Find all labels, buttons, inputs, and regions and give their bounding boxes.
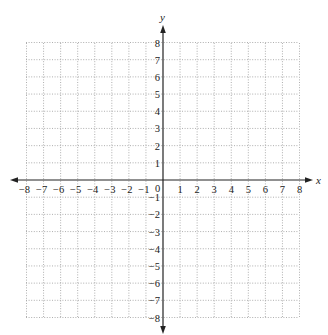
y-tick-label: −7 [149, 295, 160, 306]
y-tick-label: 2 [155, 141, 160, 152]
y-tick-label: 6 [155, 72, 160, 83]
origin-label: 0 [155, 183, 160, 194]
y-tick-label: 4 [155, 106, 161, 117]
x-tick-label: −5 [70, 184, 81, 195]
y-tick-label: −8 [149, 313, 160, 324]
coordinate-plane: −8−7−6−5−4−3−2−112345678−8−7−6−5−4−3−2−1… [0, 0, 328, 335]
y-tick-label: 5 [155, 89, 160, 100]
x-tick-label: 2 [195, 184, 200, 195]
y-tick-label: −4 [149, 244, 161, 255]
y-axis-down-arrow-icon [160, 326, 166, 334]
y-tick-label: −2 [149, 209, 160, 220]
x-tick-label: 6 [263, 184, 268, 195]
y-tick-label: 3 [155, 123, 160, 134]
y-tick-label: −6 [149, 278, 160, 289]
x-axis-label: x [315, 174, 321, 186]
x-axis-right-arrow-icon [305, 177, 313, 183]
x-tick-label: 1 [177, 184, 182, 195]
y-tick-label: −3 [149, 227, 160, 238]
y-tick-label: 1 [155, 158, 160, 169]
x-tick-label: 4 [229, 184, 235, 195]
x-tick-label: 3 [212, 184, 217, 195]
x-tick-label: 5 [246, 184, 251, 195]
y-axis-label: y [159, 11, 165, 23]
x-tick-label: 8 [297, 184, 302, 195]
x-tick-label: 7 [280, 184, 285, 195]
axes [10, 25, 313, 334]
y-tick-label: 8 [155, 38, 160, 49]
x-tick-label: −6 [53, 184, 64, 195]
y-tick-label: 7 [155, 55, 160, 66]
x-axis-left-arrow-icon [10, 177, 18, 183]
x-tick-label: −3 [104, 184, 115, 195]
x-tick-label: −4 [87, 184, 99, 195]
y-tick-label: −5 [149, 261, 160, 272]
x-tick-label: −2 [121, 184, 132, 195]
y-axis-up-arrow-icon [160, 25, 166, 33]
x-tick-label: −7 [36, 184, 47, 195]
x-tick-label: −8 [19, 184, 30, 195]
